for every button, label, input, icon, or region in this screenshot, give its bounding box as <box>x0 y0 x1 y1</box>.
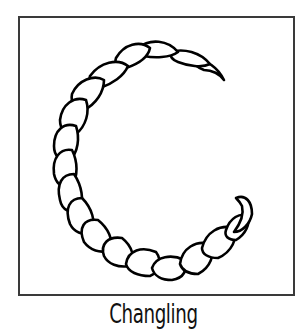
illustration-frame <box>18 16 295 296</box>
braided-letter-c-illustration <box>20 18 293 294</box>
caption-label: Changling <box>34 298 273 330</box>
